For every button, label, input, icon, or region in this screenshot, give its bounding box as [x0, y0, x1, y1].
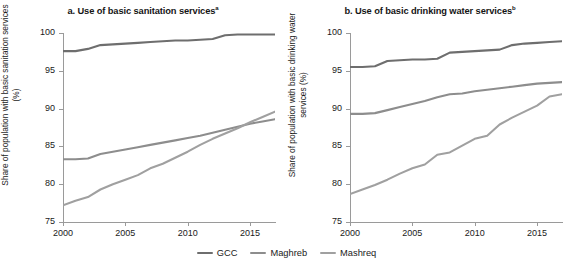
- legend-item-mashreq[interactable]: Mashreq: [320, 248, 376, 258]
- legend-swatch-maghreb: [250, 252, 266, 254]
- x-tick-label: 2010: [455, 228, 495, 238]
- legend-label-maghreb: Maghreb: [270, 248, 307, 258]
- panel-b-title-text: b. Use of basic drinking water services: [344, 6, 512, 16]
- series-line-gcc: [350, 41, 562, 67]
- y-tick-label: 100: [22, 27, 55, 37]
- panel-a-title-text: a. Use of basic sanitation services: [67, 6, 215, 16]
- x-tick-label: 2015: [517, 228, 557, 238]
- legend-item-maghreb[interactable]: Maghreb: [250, 248, 307, 258]
- x-tick-mark: [188, 222, 189, 226]
- x-tick-mark: [125, 222, 126, 226]
- panel-a-series-group: [63, 35, 275, 206]
- y-tick-mark: [346, 109, 350, 110]
- y-tick-label: 80: [309, 178, 342, 188]
- x-tick-mark: [475, 222, 476, 226]
- x-tick-label: 2000: [43, 228, 83, 238]
- x-tick-label: 2000: [330, 228, 370, 238]
- panel-b-x-axis-line: [350, 222, 563, 223]
- panel-b-plot-area: [350, 33, 562, 222]
- y-tick-label: 100: [309, 27, 342, 37]
- y-tick-label: 75: [309, 216, 342, 226]
- y-tick-mark: [346, 146, 350, 147]
- panel-a-y-axis-label: Share of population with basic sanitatio…: [0, 0, 22, 190]
- y-tick-mark: [346, 33, 350, 34]
- panel-a-title-superscript: a: [215, 5, 218, 11]
- x-tick-mark: [63, 222, 64, 226]
- x-tick-mark: [350, 222, 351, 226]
- x-tick-label: 2010: [168, 228, 208, 238]
- y-tick-mark: [346, 71, 350, 72]
- y-tick-mark: [59, 184, 63, 185]
- y-tick-mark: [59, 71, 63, 72]
- panel-b-title-superscript: b: [512, 5, 516, 11]
- y-tick-label: 95: [309, 65, 342, 75]
- y-tick-label: 80: [22, 178, 55, 188]
- panel-a-svg: [63, 33, 275, 222]
- panel-b-series-group: [350, 41, 562, 194]
- panel-b-svg: [350, 33, 562, 222]
- legend-item-gcc[interactable]: GCC: [197, 248, 238, 258]
- chart-panel-drinking-water: b. Use of basic drinking water servicesb…: [287, 0, 573, 240]
- series-line-gcc: [63, 35, 275, 52]
- x-tick-label: 2005: [105, 228, 145, 238]
- legend-swatch-mashreq: [320, 252, 336, 254]
- y-tick-mark: [346, 184, 350, 185]
- legend-label-gcc: GCC: [217, 248, 238, 258]
- figure-container: a. Use of basic sanitation servicesa Sha…: [0, 0, 573, 271]
- panel-a-title: a. Use of basic sanitation servicesa: [0, 5, 286, 16]
- x-tick-mark: [250, 222, 251, 226]
- y-tick-label: 95: [22, 65, 55, 75]
- panel-b-title: b. Use of basic drinking water servicesb: [287, 5, 573, 16]
- x-tick-label: 2015: [230, 228, 270, 238]
- y-tick-label: 90: [22, 103, 55, 113]
- chart-panel-sanitation: a. Use of basic sanitation servicesa Sha…: [0, 0, 286, 240]
- y-tick-mark: [59, 109, 63, 110]
- legend-label-mashreq: Mashreq: [340, 248, 376, 258]
- y-tick-label: 75: [22, 216, 55, 226]
- x-tick-label: 2005: [392, 228, 432, 238]
- panel-a-plot-area: [63, 33, 275, 222]
- x-tick-mark: [412, 222, 413, 226]
- x-tick-mark: [537, 222, 538, 226]
- y-tick-mark: [59, 146, 63, 147]
- y-tick-label: 85: [309, 140, 342, 150]
- series-line-mashreq: [350, 94, 562, 194]
- legend-swatch-gcc: [197, 252, 213, 254]
- y-tick-label: 90: [309, 103, 342, 113]
- chart-legend: GCCMaghrebMashreq: [0, 243, 573, 263]
- y-tick-label: 85: [22, 140, 55, 150]
- panel-b-y-axis-label: Share of population with basic drinking …: [287, 0, 309, 190]
- panel-a-x-axis-line: [63, 222, 276, 223]
- series-line-mashreq: [63, 112, 275, 206]
- y-tick-mark: [59, 33, 63, 34]
